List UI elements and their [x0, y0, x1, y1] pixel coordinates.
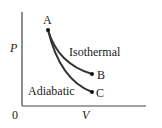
point-b-label: B — [97, 69, 105, 81]
isothermal-label: Isothermal — [69, 46, 120, 58]
point-c-label: C — [96, 87, 104, 99]
point-c-marker — [90, 90, 94, 94]
y-axis-label: P — [10, 42, 17, 54]
pv-diagram-canvas — [0, 0, 162, 128]
point-a-marker — [46, 28, 50, 32]
adiabatic-label: Adiabatic — [28, 85, 75, 97]
origin-label: 0 — [12, 109, 18, 121]
point-b-marker — [90, 72, 94, 76]
adiabatic-curve — [48, 30, 92, 92]
point-a-label: A — [43, 14, 52, 26]
x-axis-label: V — [82, 109, 89, 121]
